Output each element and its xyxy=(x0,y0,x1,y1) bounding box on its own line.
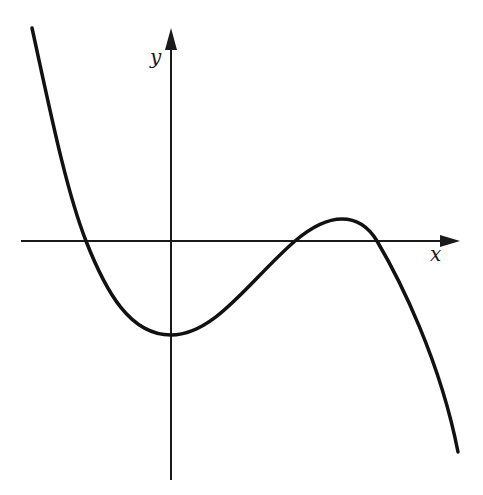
y-axis-label: y xyxy=(149,45,162,69)
x-axis-label: x xyxy=(430,242,441,266)
x-axis-arrow-icon xyxy=(440,235,460,247)
function-graph: x y xyxy=(0,0,483,495)
y-axis-arrow-icon xyxy=(165,28,177,50)
